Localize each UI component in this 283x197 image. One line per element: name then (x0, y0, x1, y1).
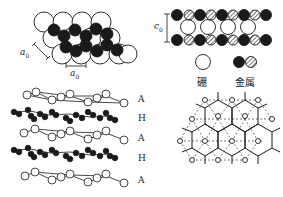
layer-a-3 (21, 168, 128, 187)
layer-h-2 (11, 145, 118, 162)
legend-label-boron: 硼 (197, 74, 207, 89)
layer-h-1 (11, 107, 118, 124)
legend-boron-symbol (196, 55, 211, 70)
layer-label-1: A (138, 94, 145, 104)
a0-side-subscript: 0 (25, 52, 29, 59)
a0-side-label: a0 (20, 47, 29, 59)
c0-label: c0 (154, 21, 163, 33)
legend-metal-filled-symbol (234, 57, 245, 68)
top-view-packing (32, 12, 137, 68)
layer-label-2: H (138, 113, 146, 123)
honeycomb-lattice (178, 92, 281, 164)
legend-metal-hatched-symbol (246, 57, 257, 68)
layer-label-3: A (138, 133, 145, 143)
legend-label-metal: 金属 (235, 74, 255, 89)
a0-bottom-subscript: 0 (75, 73, 79, 80)
a0-bottom-label: a0 (70, 68, 79, 80)
layer-a-1 (23, 88, 128, 107)
c0-subscript: 0 (159, 26, 163, 33)
layer-label-5: A (138, 175, 145, 185)
legend (196, 55, 257, 70)
layer-a-2 (20, 125, 128, 144)
side-view-layers (164, 10, 272, 46)
layer-label-4: H (138, 153, 146, 163)
layer-stack (11, 88, 128, 187)
